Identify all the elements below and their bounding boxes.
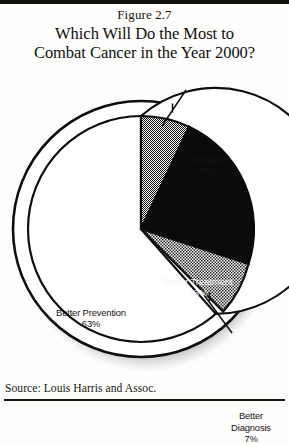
figure-number: Figure 2.7 bbox=[0, 7, 289, 23]
slice-label-better-treatment-value: 23% bbox=[148, 287, 248, 298]
top-rule bbox=[0, 0, 289, 4]
slice-label-better-diagnosis-value: 7% bbox=[217, 433, 285, 445]
slice-label-better-prevention-name: Better Prevention bbox=[56, 307, 126, 318]
slice-label-better-diagnosis: Better Diagnosis 7% bbox=[217, 410, 285, 445]
pie-chart-svg bbox=[0, 80, 289, 380]
title-line-1: Which Will Do the Most to bbox=[55, 24, 234, 43]
source-note: Source: Louis Harris and Assoc. bbox=[5, 382, 156, 395]
page-title: Which Will Do the Most to Combat Cancer … bbox=[0, 24, 289, 62]
slice-label-better-prevention: Better Prevention 63% bbox=[36, 307, 146, 329]
bottom-rule bbox=[4, 399, 285, 401]
slice-label-better-treatment: Better Treatment 23% bbox=[148, 276, 248, 298]
slice-label-better-diagnosis-name-2: Diagnosis bbox=[217, 422, 285, 434]
slice-label-not-sure: Not Sure 7% bbox=[172, 154, 242, 176]
slice-label-better-prevention-value: 63% bbox=[36, 318, 146, 329]
slice-label-not-sure-name: Not Sure bbox=[189, 154, 225, 165]
slice-label-not-sure-value: 7% bbox=[172, 165, 242, 176]
slice-label-better-diagnosis-name-1: Better bbox=[239, 410, 263, 421]
title-line-2: Combat Cancer in the Year 2000? bbox=[0, 43, 289, 62]
pie-chart: Not Sure 7% Better Treatment 23% Better … bbox=[0, 80, 289, 380]
slice-label-better-treatment-name: Better Treatment bbox=[163, 276, 232, 287]
